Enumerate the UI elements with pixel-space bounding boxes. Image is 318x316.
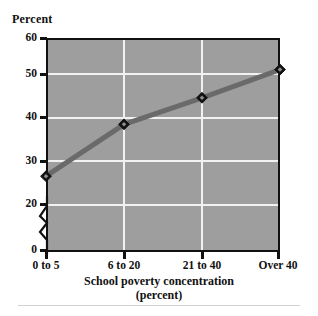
y-tick-label-40: 40 [12, 110, 37, 122]
plot-area [46, 38, 280, 252]
y-tick-mark-50 [40, 73, 47, 76]
x-tick-label-0-to-5: 0 to 5 [33, 259, 60, 271]
footer-rule [18, 305, 300, 306]
x-axis-title-line-2: (percent) [0, 288, 318, 302]
x-axis-title: School poverty concentration (percent) [0, 274, 318, 302]
chart-figure: Percent 60 50 40 30 20 0 0 to 5 6 to 20 … [0, 0, 318, 316]
y-tick-label-20: 20 [12, 197, 37, 209]
x-tick-mark-over-40 [277, 252, 280, 259]
y-tick-mark-60 [40, 37, 47, 40]
x-tick-mark-6-to-20 [123, 252, 126, 259]
y-tick-mark-30 [40, 160, 47, 163]
gridline-x-21-to-40 [201, 38, 203, 252]
y-tick-label-50: 50 [12, 67, 37, 79]
x-tick-mark-21-to-40 [201, 252, 204, 259]
gridline-y-20 [46, 204, 280, 206]
x-tick-label-over-40: Over 40 [258, 259, 297, 271]
y-tick-label-30: 30 [12, 154, 37, 166]
x-tick-label-21-to-40: 21 to 40 [183, 259, 221, 271]
y-tick-label-60: 60 [12, 31, 37, 43]
x-tick-label-6-to-20: 6 to 20 [108, 259, 141, 271]
axis-break-icon [36, 196, 58, 254]
y-axis-title: Percent [12, 12, 53, 27]
x-axis-title-line-1: School poverty concentration [84, 274, 234, 288]
y-tick-label-0: 0 [12, 243, 37, 255]
y-tick-mark-40 [40, 116, 47, 119]
gridline-y-30 [46, 160, 280, 162]
x-tick-mark-0-to-5 [45, 252, 48, 259]
gridline-y-40 [46, 117, 280, 119]
gridline-y-50 [46, 73, 280, 75]
gridline-x-6-to-20 [123, 38, 125, 252]
